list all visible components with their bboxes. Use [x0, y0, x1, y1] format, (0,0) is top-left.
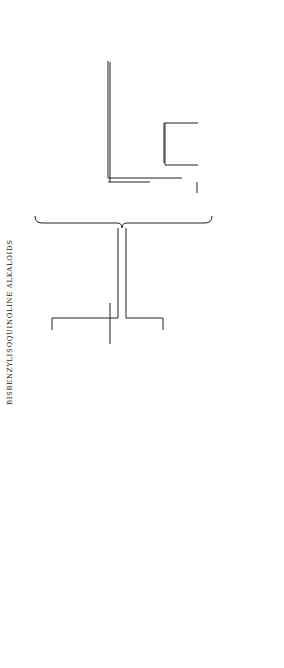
diagram-page: BISBENZYLISOQUINOLINE ALKALOIDS [0, 0, 284, 668]
arrows-layer [0, 0, 284, 668]
